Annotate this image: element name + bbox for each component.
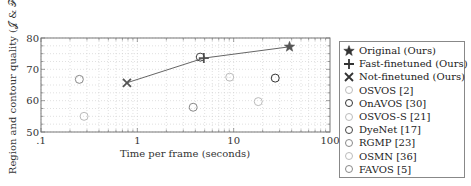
legend-item-osmn: OSMN [36] (343, 150, 461, 163)
y-tick-label: 60 (26, 95, 39, 106)
x-marker-icon (343, 71, 355, 83)
axis-ticks: .111010050607080 (26, 33, 339, 147)
x-tick-label: 100 (320, 135, 339, 146)
legend-item-osvos-s: OSVOS-S [21] (343, 110, 461, 123)
y-tick-label: 80 (26, 33, 39, 44)
legend-item-dyenet: DyeNet [17] (343, 123, 461, 136)
grid (41, 38, 330, 132)
circle-marker-icon (343, 84, 355, 96)
rgmp-23-point (75, 75, 83, 83)
circle-marker-icon (343, 124, 355, 136)
circle-marker-icon (343, 163, 355, 175)
y-tick-label: 50 (26, 127, 39, 138)
legend-item-original: Original (Ours) (343, 44, 461, 57)
ours-trend-line (127, 47, 290, 83)
osvos-s-21-point (254, 98, 262, 106)
circle-marker-icon (343, 150, 355, 162)
y-axis-label: Region and contour quality (𝒥 & ℱ) (7, 0, 18, 174)
circle-marker-icon (343, 137, 355, 149)
legend: Original (Ours) Fast-finetuned (Ours) No… (339, 41, 465, 178)
legend-item-fast-finetuned: Fast-finetuned (Ours) (343, 57, 461, 70)
osvos-2-point (226, 73, 234, 81)
plus-marker-icon (343, 58, 355, 70)
onavos-30-point (271, 74, 279, 82)
legend-item-not-finetuned: Not-finetuned (Ours) (343, 70, 461, 83)
x-tick-label: 1 (134, 135, 140, 146)
legend-item-onavos: OnAVOS [30] (343, 97, 461, 110)
favos-5-point (189, 103, 197, 111)
x-tick-label: 10 (227, 135, 240, 146)
not-finetuned-ours-point (123, 79, 131, 87)
y-tick-label: 70 (26, 64, 39, 75)
original-ours-point (284, 41, 294, 51)
legend-item-rgmp: RGMP [23] (343, 136, 461, 149)
star-marker-icon (343, 45, 355, 57)
legend-item-favos: FAVOS [5] (343, 163, 461, 176)
x-axis-label: Time per frame (seconds) (120, 148, 250, 159)
circle-marker-icon (343, 97, 355, 109)
legend-item-osvos: OSVOS [2] (343, 84, 461, 97)
circle-marker-icon (343, 111, 355, 123)
